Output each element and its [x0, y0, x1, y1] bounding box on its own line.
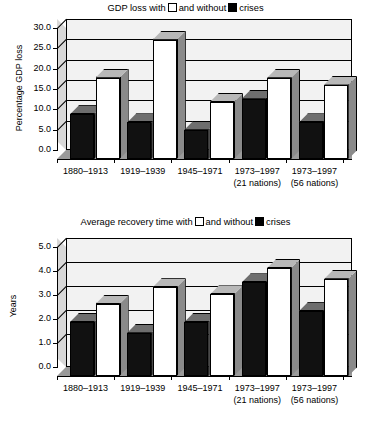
bar	[70, 114, 94, 159]
chart-title-middle: and without	[206, 217, 254, 227]
y-axis-tick-label: 3.0	[15, 289, 51, 299]
gridline	[66, 60, 352, 61]
y-axis-title: Years	[8, 295, 18, 318]
bar-front-face	[153, 40, 177, 159]
x-axis-tick	[114, 376, 115, 380]
bar	[153, 40, 177, 159]
x-axis-line	[57, 376, 352, 377]
x-axis-sublabel: (56 nations)	[280, 178, 349, 188]
bar	[127, 333, 151, 376]
x-axis-tick	[57, 376, 58, 380]
x-axis-line	[57, 159, 352, 160]
bar	[299, 122, 323, 159]
recovery-time-chart: Average recovery time withand withoutcri…	[0, 217, 371, 434]
bar-front-face	[299, 311, 323, 376]
bar	[242, 282, 266, 376]
bar-front-face	[242, 282, 266, 376]
bar	[299, 311, 323, 376]
bar-front-face	[127, 333, 151, 376]
x-axis-tick	[229, 376, 230, 380]
bar	[324, 85, 348, 159]
gdp-loss-chart: GDP loss withand withoutcrises0.05.010.0…	[0, 0, 371, 217]
bar	[210, 102, 234, 159]
chart-title-middle: and without	[179, 3, 227, 13]
legend-swatch-black-icon	[228, 3, 237, 12]
x-axis-tick	[114, 159, 115, 163]
gridline	[66, 39, 352, 40]
chart-title: GDP loss withand withoutcrises	[0, 3, 371, 13]
bar	[70, 322, 94, 376]
bar	[184, 322, 208, 376]
gridline	[66, 286, 352, 287]
bar-front-face	[324, 85, 348, 159]
bar	[267, 78, 291, 159]
bar	[96, 304, 120, 376]
x-axis-label: 1973–1997	[280, 383, 349, 393]
x-axis-tick	[229, 159, 230, 163]
gridline	[66, 238, 352, 239]
y-axis-tick-label: 4.0	[15, 265, 51, 275]
x-axis-tick	[57, 159, 58, 163]
bar-front-face	[96, 304, 120, 376]
bar-front-face	[242, 99, 266, 159]
legend-swatch-white-icon	[195, 217, 204, 226]
x-axis-tick	[171, 376, 172, 380]
plot-left-wall	[57, 238, 66, 367]
bar-front-face	[184, 322, 208, 376]
y-axis-line	[57, 28, 58, 151]
x-axis-tick	[286, 376, 287, 380]
bar-front-face	[267, 268, 291, 376]
bar-front-face	[127, 122, 151, 159]
bar-front-face	[153, 287, 177, 376]
bar	[96, 78, 120, 159]
bar-side-face	[348, 76, 357, 159]
y-axis-tick-label: 0.0	[15, 361, 51, 371]
bar-front-face	[299, 122, 323, 159]
x-axis-tick	[343, 159, 344, 163]
y-axis-tick-label: 5.0	[15, 241, 51, 251]
bar	[210, 294, 234, 376]
bar	[242, 99, 266, 159]
bar	[153, 287, 177, 376]
y-axis-tick-label: 1.0	[15, 337, 51, 347]
bar-front-face	[324, 279, 348, 376]
bar-front-face	[184, 130, 208, 159]
chart-title: Average recovery time withand withoutcri…	[0, 217, 371, 227]
bar	[127, 122, 151, 159]
y-axis-tick-label: 30.0	[15, 22, 51, 32]
bar-front-face	[267, 78, 291, 159]
chart-title-prefix: GDP loss with	[107, 3, 165, 13]
bar	[324, 279, 348, 376]
x-axis-tick	[343, 376, 344, 380]
bar	[184, 130, 208, 159]
bar	[267, 268, 291, 376]
bar-front-face	[210, 102, 234, 159]
y-axis-line	[57, 247, 58, 368]
chart-title-suffix: crises	[239, 3, 263, 13]
chart-title-suffix: crises	[266, 217, 290, 227]
x-axis-label: 1973–1997	[280, 166, 349, 176]
gridline	[66, 19, 352, 20]
legend-swatch-black-icon	[255, 217, 264, 226]
legend-swatch-white-icon	[168, 3, 177, 12]
bar-front-face	[210, 294, 234, 376]
bar-front-face	[70, 322, 94, 376]
x-axis-tick	[171, 159, 172, 163]
x-axis-tick	[286, 159, 287, 163]
y-axis-title: Percentage GDP loss	[14, 45, 24, 131]
x-axis-sublabel: (56 nations)	[280, 395, 349, 405]
bar-side-face	[348, 270, 357, 376]
y-axis-tick-label: 0.0	[15, 144, 51, 154]
gridline	[66, 262, 352, 263]
bar-front-face	[70, 114, 94, 159]
chart-title-prefix: Average recovery time with	[81, 217, 193, 227]
y-axis-tick-label: 2.0	[15, 313, 51, 323]
bar-front-face	[96, 78, 120, 159]
